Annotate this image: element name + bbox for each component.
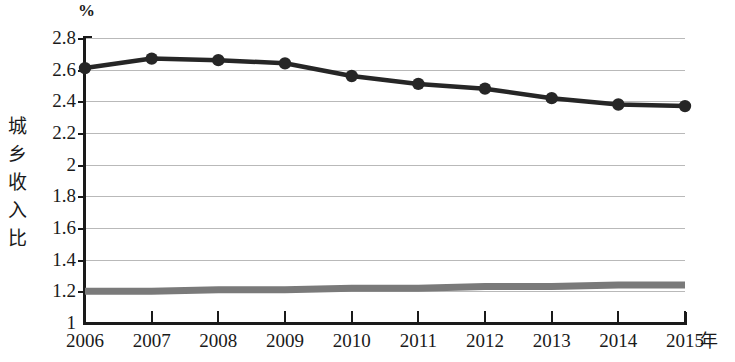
x-axis-tick	[284, 311, 286, 323]
x-axis-tick	[617, 311, 619, 323]
y-axis-line	[83, 36, 86, 325]
y-axis-tick	[78, 291, 86, 293]
x-axis-tick-label: 2008	[185, 330, 251, 352]
x-axis-tick	[551, 311, 553, 323]
x-axis-tick	[484, 311, 486, 323]
gridline	[85, 38, 685, 39]
x-axis-tick-label: 2014	[585, 330, 651, 352]
gridline	[85, 101, 685, 102]
y-axis-tick-label: 1.6	[20, 218, 76, 237]
y-axis-tick-labels: 11.21.41.61.822.22.42.62.8	[20, 0, 76, 362]
gridline	[85, 165, 685, 166]
y-axis-tick-label: 1.2	[20, 281, 76, 300]
x-axis-tick-label: 2011	[385, 330, 451, 352]
x-axis-tick-label: 2013	[519, 330, 585, 352]
x-axis-title: 年	[700, 330, 718, 352]
y-axis-tick	[78, 260, 86, 262]
gridline	[85, 133, 685, 134]
y-axis-tick-label: 2.4	[20, 91, 76, 110]
gridline	[85, 70, 685, 71]
x-axis-line	[83, 322, 686, 325]
y-axis-unit-label: %	[78, 2, 95, 19]
x-axis-tick-label: 2012	[452, 330, 518, 352]
y-axis-tick	[78, 196, 86, 198]
line-chart: % 城乡收入比 11.21.41.61.822.22.42.62.8 20062…	[0, 0, 735, 362]
gridline	[85, 291, 685, 292]
x-axis-tick-label: 2006	[52, 330, 118, 352]
y-axis-tick	[78, 101, 86, 103]
x-axis-tick-label: 2007	[119, 330, 185, 352]
x-axis-tick	[84, 311, 86, 323]
y-axis-tick-label: 1.8	[20, 186, 76, 205]
x-axis-tick	[351, 311, 353, 323]
x-axis-tick-label: 2009	[252, 330, 318, 352]
y-axis-tick	[78, 228, 86, 230]
y-axis-tick-label: 2	[20, 155, 76, 174]
y-axis-tick-label: 2.6	[20, 60, 76, 79]
y-axis-tick	[78, 38, 86, 40]
x-axis-tick-label: 2010	[319, 330, 385, 352]
y-axis-tick-label: 2.8	[20, 28, 76, 47]
x-axis-tick	[151, 311, 153, 323]
gridline	[85, 260, 685, 261]
y-axis-tick	[78, 70, 86, 72]
y-axis-tick-label: 2.2	[20, 123, 76, 142]
y-axis-tick	[78, 165, 86, 167]
gridline	[85, 196, 685, 197]
plot-area	[85, 38, 685, 323]
gridline	[85, 228, 685, 229]
y-axis-tick	[78, 133, 86, 135]
x-axis-tick	[217, 311, 219, 323]
x-axis-tick	[684, 311, 686, 323]
y-axis-tick-label: 1.4	[20, 250, 76, 269]
x-axis-tick	[417, 311, 419, 323]
